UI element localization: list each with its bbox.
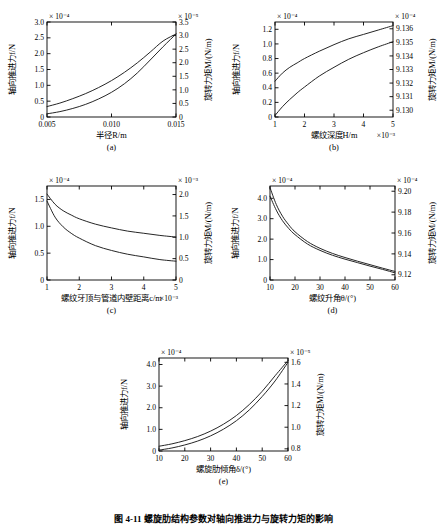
xticklabel-e-0: 10 bbox=[155, 454, 163, 463]
xlabel-b: 螺纹深度H/m bbox=[311, 130, 358, 140]
yticklabel-left-c-0: 0 bbox=[40, 276, 44, 285]
subplot-d: 10203040506001.02.03.04.09.129.149.169.1… bbox=[223, 160, 447, 330]
yticklabel-left-d-3: 3.0 bbox=[258, 214, 268, 223]
left-exponent-b: × 10⁻⁴ bbox=[277, 12, 298, 21]
right-exponent-b: × 10⁻⁴ bbox=[395, 12, 416, 21]
curve-d-rotation-torque bbox=[270, 196, 395, 273]
yticklabel-right-e-3: 1.4 bbox=[291, 380, 301, 389]
left-exponent-c: × 10⁻⁴ bbox=[49, 176, 70, 185]
subplot-e: 10203040506001.02.03.04.00.81.01.21.41.6… bbox=[112, 330, 336, 505]
subplot-tag-b: (b) bbox=[329, 143, 339, 152]
ylabel-left-a: 轴向推进力f/N bbox=[7, 44, 17, 95]
subplot-tag-e: (e) bbox=[219, 477, 229, 486]
curve-b-rotation-torque bbox=[275, 42, 393, 116]
yticklabel-right-b-6: 9.136 bbox=[396, 24, 413, 33]
yticklabel-right-a-2: 1.0 bbox=[179, 86, 189, 95]
subplot-tag-d: (d) bbox=[328, 306, 338, 315]
yticklabel-left-c-1: 0.5 bbox=[35, 249, 45, 258]
curve-c-axial-force bbox=[47, 194, 176, 237]
yticklabel-left-a-2: 1.0 bbox=[35, 81, 45, 90]
xlabel-a: 半径R/m bbox=[96, 130, 127, 140]
xticklabel-c-2: 3 bbox=[110, 283, 114, 292]
curve-e-rotation-torque bbox=[159, 362, 288, 450]
yticklabel-left-e-0: 0 bbox=[152, 447, 156, 456]
xticklabel-b-1: 2 bbox=[303, 120, 307, 129]
plot-frame-d bbox=[270, 186, 395, 280]
plot-frame-a bbox=[47, 22, 176, 117]
ylabel-left-e: 轴向推进力f/N bbox=[119, 379, 129, 430]
plot-frame-c bbox=[47, 186, 176, 280]
yticklabel-right-c-0: 0 bbox=[179, 276, 183, 285]
ylabel-left-b: 轴向推进力f/N bbox=[231, 44, 241, 95]
xticklabel-d-0: 10 bbox=[266, 283, 274, 292]
figure-caption: 图 4-11 螺旋肋结构参数对轴向推进力与旋转力矩的影响 bbox=[0, 512, 447, 525]
xticklabel-e-1: 20 bbox=[181, 454, 189, 463]
yticklabel-left-b-1: 0.2 bbox=[263, 98, 273, 107]
xlabel-exponent-c: ×10⁻³ bbox=[160, 294, 179, 303]
chart-a: 0.0050.0100.01500.51.01.52.02.53.000.51.… bbox=[0, 0, 224, 165]
yticklabel-right-c-3: 1.5 bbox=[179, 212, 189, 221]
yticklabel-right-c-1: 0.5 bbox=[179, 254, 189, 263]
yticklabel-right-c-4: 2.0 bbox=[179, 190, 189, 199]
subplot-b: 1234500.20.40.60.81.01.29.1309.1319.1329… bbox=[223, 0, 447, 165]
chart-e: 10203040506001.02.03.04.00.81.01.21.41.6… bbox=[112, 330, 336, 505]
chart-b: 1234500.20.40.60.81.01.29.1309.1319.1329… bbox=[223, 0, 447, 165]
chart-c: 1234500.51.01.500.51.01.52.0× 10⁻⁴× 10⁻³… bbox=[0, 160, 224, 330]
yticklabel-left-e-2: 2.0 bbox=[147, 403, 157, 412]
xticklabel-e-4: 50 bbox=[258, 454, 266, 463]
curve-e-axial-force bbox=[159, 361, 288, 447]
left-exponent-e: × 10⁻⁴ bbox=[161, 348, 182, 357]
subplot-d-plot: 10203040506001.02.03.04.09.129.149.169.1… bbox=[223, 160, 447, 330]
right-exponent-e: × 10⁻⁵ bbox=[290, 348, 311, 357]
yticklabel-right-d-0: 9.12 bbox=[398, 270, 411, 279]
right-exponent-a: × 10⁻⁵ bbox=[178, 12, 199, 21]
yticklabel-left-a-5: 2.5 bbox=[35, 33, 45, 42]
right-exponent-d: × 10⁻⁴ bbox=[397, 176, 418, 185]
xlabel-exponent-b: ×10⁻³ bbox=[377, 131, 396, 140]
yticklabel-left-d-1: 1.0 bbox=[258, 255, 268, 264]
curve-b-axial-force bbox=[275, 26, 393, 82]
yticklabel-left-c-3: 1.5 bbox=[35, 195, 45, 204]
left-exponent-d: × 10⁻⁴ bbox=[272, 176, 293, 185]
yticklabel-left-e-1: 1.0 bbox=[147, 425, 157, 434]
xticklabel-d-3: 40 bbox=[341, 283, 349, 292]
ylabel-left-c: 轴向推进力f/N bbox=[7, 207, 17, 258]
yticklabel-right-b-2: 9.132 bbox=[396, 79, 413, 88]
subplot-tag-c: (c) bbox=[107, 306, 117, 315]
yticklabel-right-a-5: 2.5 bbox=[179, 45, 189, 54]
yticklabel-left-a-4: 2.0 bbox=[35, 49, 45, 58]
xticklabel-d-2: 30 bbox=[316, 283, 324, 292]
xticklabel-d-4: 50 bbox=[366, 283, 374, 292]
left-exponent-a: × 10⁻⁴ bbox=[49, 12, 70, 21]
yticklabel-right-a-1: 0.5 bbox=[179, 99, 189, 108]
xticklabel-e-3: 40 bbox=[233, 454, 241, 463]
yticklabel-left-b-0: 0 bbox=[268, 113, 272, 122]
xticklabel-b-0: 1 bbox=[273, 120, 277, 129]
ylabel-right-d: 旋转力矩M/(N/m) bbox=[427, 202, 437, 264]
yticklabel-left-b-5: 1.0 bbox=[263, 40, 273, 49]
xticklabel-a-1: 0.010 bbox=[103, 120, 120, 129]
subplot-a: 0.0050.0100.01500.51.01.52.02.53.000.51.… bbox=[0, 0, 224, 165]
yticklabel-right-d-3: 9.18 bbox=[398, 208, 411, 217]
ylabel-right-b: 旋转力矩M/(N/m) bbox=[427, 38, 437, 100]
curve-d-axial-force bbox=[270, 188, 395, 272]
yticklabel-left-b-4: 0.8 bbox=[263, 54, 273, 63]
subplot-b-plot: 1234500.20.40.60.81.01.29.1309.1319.1329… bbox=[223, 0, 447, 165]
xlabel-d: 螺纹升角θ/(°) bbox=[309, 293, 356, 303]
xlabel-c: 螺纹牙顶与管道内壁距离c/m bbox=[61, 293, 162, 303]
yticklabel-right-a-4: 2.0 bbox=[179, 58, 189, 67]
yticklabel-right-e-2: 1.2 bbox=[291, 401, 301, 410]
yticklabel-right-b-3: 9.133 bbox=[396, 65, 413, 74]
chart-d: 10203040506001.02.03.04.09.129.149.169.1… bbox=[223, 160, 447, 330]
plot-frame-e bbox=[159, 358, 288, 451]
yticklabel-right-d-1: 9.14 bbox=[398, 250, 411, 259]
yticklabel-right-e-1: 1.0 bbox=[291, 423, 301, 432]
yticklabel-left-b-2: 0.4 bbox=[263, 83, 273, 92]
yticklabel-left-c-2: 1.0 bbox=[35, 222, 45, 231]
yticklabel-right-b-5: 9.135 bbox=[396, 38, 413, 47]
ylabel-right-c: 旋转力矩M/(N/m) bbox=[203, 202, 213, 264]
xticklabel-b-4: 5 bbox=[391, 120, 395, 129]
xticklabel-c-0: 1 bbox=[45, 283, 49, 292]
yticklabel-left-d-2: 2.0 bbox=[258, 235, 268, 244]
xticklabel-c-3: 4 bbox=[142, 283, 146, 292]
